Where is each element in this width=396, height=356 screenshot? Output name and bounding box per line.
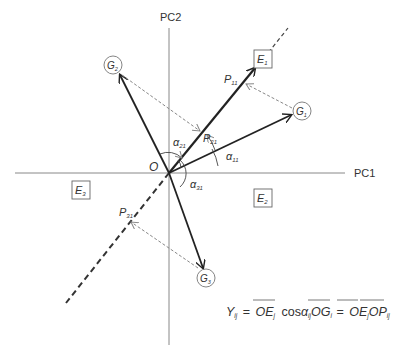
e1-sub: 1	[264, 60, 267, 66]
environment-e1: E1	[254, 50, 272, 68]
p31-sub: 31	[126, 213, 133, 219]
alpha31-sub: 31	[196, 185, 203, 191]
alpha11-sub: 11	[232, 157, 238, 163]
formula-op: OP	[369, 305, 388, 319]
p11-sub: 11	[231, 80, 237, 86]
angle-arc-alpha21	[160, 152, 182, 158]
alpha21-sub: 21	[178, 143, 186, 149]
p21-sub: 21	[209, 139, 217, 145]
formula-oe2: OE	[349, 305, 368, 319]
genotype-g1: G1	[293, 102, 311, 120]
genotype-g2: G2	[104, 56, 122, 74]
alpha21-label: α21	[173, 136, 186, 149]
environment-e3: E3	[72, 181, 90, 199]
projection-g3	[131, 222, 198, 268]
environment-e2: E2	[254, 189, 272, 207]
pc1-label: PC1	[354, 167, 375, 179]
g1-sub: 1	[304, 112, 307, 118]
formula-og: OG	[311, 305, 331, 319]
e2-sub: 2	[263, 199, 268, 205]
vector-oe1	[169, 68, 255, 173]
formula-og-sub: i	[330, 312, 332, 319]
formula-op-sub: ij	[387, 312, 390, 320]
genotype-g3: G3	[197, 269, 215, 287]
vector-og1	[169, 115, 291, 173]
p21-label: P21	[203, 132, 217, 145]
svg-text:Yij = OEj co: Yij = OEj cosαijOGi = OEjOPij	[226, 305, 390, 321]
p11-label: P11	[224, 73, 238, 86]
formula-oe1-sub: j	[273, 312, 276, 320]
origin-label: O	[149, 160, 158, 174]
formula: Yij = OEj cosαijOGi = OEjOPij	[226, 300, 390, 321]
p31-label: P31	[119, 206, 133, 219]
formula-oe1: OE	[256, 305, 275, 319]
alpha31-label: α31	[190, 178, 203, 191]
vector-og2	[120, 75, 169, 173]
formula-y-sub: ij	[234, 312, 237, 320]
g2-sub: 2	[114, 66, 118, 72]
pc2-label: PC2	[160, 11, 181, 23]
formula-cos: cos	[282, 305, 301, 319]
biplot-diagram: PC2 PC1 O E1 E2 E3 G1 G2 G3 P11 P21 P31 …	[0, 0, 396, 356]
projection-g1	[246, 84, 292, 108]
alpha11-label: α11	[226, 150, 239, 163]
formula-eq1: =	[243, 305, 250, 319]
formula-eq2: =	[336, 305, 343, 319]
